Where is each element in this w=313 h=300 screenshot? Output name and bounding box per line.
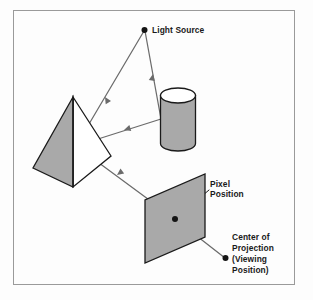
pixel-position-dot (172, 216, 178, 222)
pyramid-left-face (33, 97, 73, 187)
cylinder-body (161, 96, 196, 152)
pyramid-right-face (73, 97, 111, 187)
figure-container: Light Source Pixel Position Center of Pr… (0, 0, 313, 300)
arrowhead-to-pyramid-horizontal (123, 125, 131, 133)
cylinder-object (161, 88, 196, 151)
light-source-dot (142, 27, 148, 33)
center-of-projection-dot (223, 255, 229, 261)
label-pixel-position-line1: Pixel (210, 179, 230, 189)
label-center-of-projection-line3: (Viewing (232, 254, 267, 264)
label-pixel-position-line2: Position (210, 189, 244, 199)
ray-tracing-diagram: Light Source Pixel Position Center of Pr… (0, 0, 313, 300)
label-center-of-projection-line2: Projection (232, 243, 274, 253)
cylinder-top-face (161, 88, 196, 103)
label-light-source: Light Source (152, 25, 205, 35)
label-center-of-projection-line1: Center of (232, 232, 270, 242)
label-center-of-projection-line4: Position) (232, 265, 269, 275)
pyramid-object (33, 97, 111, 187)
